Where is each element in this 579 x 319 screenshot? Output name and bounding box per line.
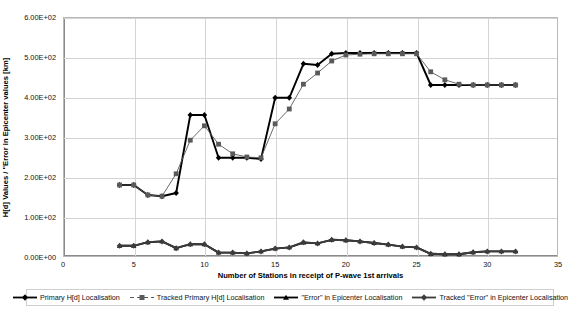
y-axis-tick-label: 3.00E+02 [24,133,56,142]
x-axis-tick-label: 20 [342,260,350,269]
data-point-marker [202,112,208,118]
data-point-marker [371,240,377,246]
data-point-marker [442,77,447,82]
data-point-marker [301,61,307,67]
data-point-marker [414,244,420,250]
data-point-marker [329,237,335,243]
legend-label: Tracked "Error" in Epicenter Localisatio… [439,293,568,302]
data-point-marker [131,243,137,249]
data-point-marker [258,248,264,254]
data-point-marker [131,183,136,188]
data-point-marker [499,83,504,88]
data-point-marker [117,243,123,249]
data-point-marker [173,190,179,196]
data-point-marker [202,123,207,128]
data-point-marker [343,53,348,58]
data-point-marker [216,155,222,161]
data-point-marker [315,240,321,246]
data-point-marker [272,95,278,101]
data-point-marker [372,51,377,56]
data-point-marker [386,51,391,56]
data-point-marker [230,151,235,156]
y-axis-tick-label: 4.00E+02 [24,93,56,102]
triangle-marker-icon [273,293,299,302]
x-axis-title: Number of Stations in receipt of P-wave … [63,271,558,280]
chart-legend: Primary H[d] LocalisationTracked Primary… [26,289,554,306]
data-point-marker [244,250,250,256]
data-point-marker [400,51,405,56]
diamond-marker-icon [411,293,437,302]
data-point-marker [400,244,406,250]
x-axis-tick-label: 15 [271,260,279,269]
data-point-marker [244,155,249,160]
legend-item[interactable]: Primary H[d] Localisation [12,293,120,302]
diamond-marker-icon [12,293,38,302]
x-axis-tick-label: 10 [200,260,208,269]
data-point-marker [273,121,278,126]
data-point-marker [457,82,462,87]
data-point-marker [160,194,165,199]
data-point-marker [259,155,264,160]
data-point-marker [287,244,293,250]
y-axis-tick-label: 0.00E+00 [24,253,56,262]
data-point-marker [513,83,518,88]
legend-item[interactable]: Tracked "Error" in Epicenter Localisatio… [411,293,568,302]
y-axis-title-text: H[d] Values / "Error in Epicenter values… [2,57,11,216]
data-point-marker [386,242,392,248]
x-axis-tick-label: 5 [132,260,136,269]
legend-label: "Error" in Epicenter Localisation [301,293,402,302]
x-axis-tick-label: 30 [483,260,491,269]
data-point-marker [329,59,334,64]
data-point-marker [343,237,349,243]
data-point-marker [470,249,476,255]
x-axis-tick-label: 35 [554,260,562,269]
y-axis-title: H[d] Values / "Error in Epicenter values… [0,17,14,257]
data-point-marker [188,112,194,118]
data-point-marker [471,83,476,88]
data-point-marker [357,238,363,244]
data-point-marker [145,239,151,245]
data-point-marker [428,69,433,74]
legend-label: Primary H[d] Localisation [40,293,120,302]
data-point-marker [485,83,490,88]
series-2 [117,51,518,198]
legend-item[interactable]: Tracked Primary H[d] Localisation [129,293,265,302]
y-axis-tick-label: 1.00E+02 [24,213,56,222]
y-axis-tick-label: 5.00E+02 [24,53,56,62]
y-axis-tick-label: 6.00E+02 [24,13,56,22]
data-point-marker [414,51,419,56]
data-point-marker [145,193,150,198]
y-axis-tick-label: 2.00E+02 [24,173,56,182]
chart-data-layer [63,17,558,257]
data-point-marker [188,138,193,143]
data-point-marker [513,248,519,254]
data-point-marker [174,171,179,176]
data-point-marker [358,52,363,57]
data-point-marker [188,241,194,247]
data-point-marker [499,248,505,254]
data-point-marker [230,250,236,256]
figure-caption [0,307,579,319]
figure-container: 0.00E+001.00E+022.00E+023.00E+024.00E+02… [0,0,579,319]
data-point-marker [301,82,306,87]
legend-item[interactable]: "Error" in Epicenter Localisation [273,293,402,302]
square-marker-icon [129,293,155,302]
legend-label: Tracked Primary H[d] Localisation [157,293,265,302]
data-point-marker [117,183,122,188]
data-point-marker [272,246,278,252]
data-point-marker [159,238,165,244]
data-point-marker [442,82,448,88]
x-axis-tick-label: 25 [412,260,420,269]
data-point-marker [216,142,221,147]
data-point-marker [173,245,179,251]
data-point-marker [315,71,320,76]
data-point-marker [428,251,434,257]
x-axis-tick-label: 0 [61,260,65,269]
data-point-marker [485,248,491,254]
data-point-marker [287,107,292,112]
series-4 [117,237,519,257]
data-point-marker [287,95,293,101]
